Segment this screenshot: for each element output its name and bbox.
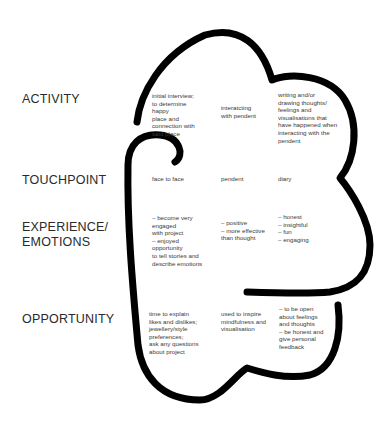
opportunity-col2: used to inspire mindfulness and visualis… — [221, 310, 266, 333]
opportunity-col1: time to explain likes and dislikes; jewe… — [149, 310, 199, 356]
opportunity-col3: – to be open about feelings and thoughts… — [279, 305, 323, 351]
experience-col2: – positive – more effective than thought — [221, 219, 265, 242]
row-label-activity: ACTIVITY — [22, 92, 80, 107]
row-label-experience-emotions: EXPERIENCE/ EMOTIONS — [22, 220, 108, 250]
experience-col3: – honest – insightful – fun – engaging — [278, 213, 309, 243]
touchpoint-col3: diary — [278, 175, 291, 183]
touchpoint-col2: pendent — [221, 175, 243, 183]
experience-col1: – become very engaged with project – enj… — [152, 214, 202, 267]
touchpoint-col1: face to face — [152, 175, 184, 183]
activity-col2: interatcting with pendent — [221, 104, 256, 119]
activity-col1: initial interview; to determine happy pl… — [152, 92, 195, 138]
row-label-opportunity: OPPORTUNITY — [22, 312, 114, 327]
activity-col3: writing and/or drawing thoughts/ feeling… — [278, 91, 337, 144]
row-label-touchpoint: TOUCHPOINT — [22, 173, 106, 188]
